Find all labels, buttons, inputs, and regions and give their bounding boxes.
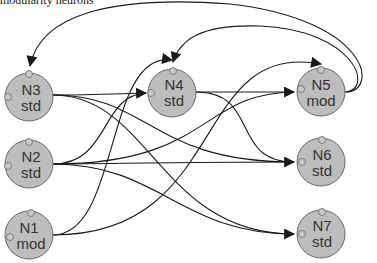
node-type: mod — [306, 92, 335, 109]
node-name: N4 — [164, 76, 183, 93]
node-name: N1 — [19, 219, 38, 236]
edge-n3-n4 — [53, 93, 146, 95]
node-name: N6 — [312, 146, 331, 163]
node-name: N7 — [312, 217, 331, 234]
node-n3[interactable]: N3 std — [5, 71, 54, 122]
input-port-left — [5, 94, 12, 101]
node-type: mod — [16, 235, 45, 252]
input-port-left — [298, 86, 305, 93]
input-port-top — [319, 137, 326, 144]
input-port-left — [299, 231, 306, 238]
input-port-top — [318, 67, 325, 74]
node-type: std — [21, 97, 41, 114]
input-port-top — [26, 71, 33, 78]
node-name: N3 — [21, 81, 40, 98]
node-n5[interactable]: N5 mod — [297, 67, 345, 117]
node-n7[interactable]: N7 std — [297, 209, 345, 259]
node-type: std — [312, 233, 332, 250]
neuron-graph: N3 std N2 std N1 mod N4 std N5 mod N6 st… — [0, 0, 377, 263]
node-type: std — [164, 92, 184, 109]
input-port-left — [148, 90, 155, 97]
node-type: std — [312, 162, 332, 179]
input-port-top — [170, 68, 177, 75]
node-n6[interactable]: N6 std — [297, 137, 345, 187]
node-name: N2 — [21, 148, 40, 165]
input-port-top — [319, 209, 326, 216]
node-name: N5 — [311, 76, 330, 93]
input-port-left — [299, 159, 306, 166]
edges — [30, 2, 362, 235]
node-n2[interactable]: N2 std — [5, 139, 54, 189]
input-port-left — [7, 234, 14, 241]
input-port-left — [5, 163, 12, 170]
node-n4[interactable]: N4 std — [148, 68, 197, 118]
input-port-top — [28, 210, 35, 217]
node-type: std — [21, 164, 41, 181]
edge-n2-n4 — [53, 93, 146, 164]
edge-n2-n7 — [53, 164, 294, 234]
input-port-top — [26, 139, 33, 146]
node-n1[interactable]: N1 mod — [5, 210, 53, 260]
